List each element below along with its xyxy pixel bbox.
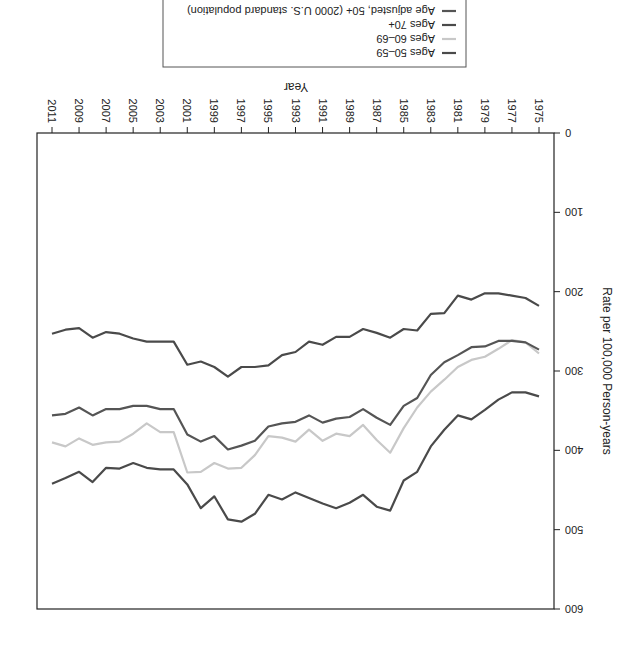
x-tick-label: 2003 [154,99,166,123]
y-tick-label: 300 [565,365,583,377]
x-tick-label: 1981 [452,99,464,123]
series-line-3 [52,341,539,450]
x-tick-label: 1979 [479,99,491,123]
x-tick-label: 1977 [506,99,518,123]
x-tick-label: 1975 [533,99,545,123]
y-tick-label: 600 [565,603,583,615]
x-tick-label: 1997 [235,99,247,123]
y-axis: 0100200300400500600 [554,127,583,615]
x-tick-label: 1991 [317,99,329,123]
plot-frame [37,133,554,609]
x-tick-label: 1983 [425,99,437,123]
legend-label: Age adjusted, 50+ (2000 U.S. standard po… [187,5,435,17]
y-tick-label: 100 [565,206,583,218]
legend: Ages 50–59 Ages 60–69 Ages 70+ Age adjus… [163,0,466,67]
legend-label: Ages 70+ [388,19,435,31]
x-axis-title: Year [284,80,308,94]
x-tick-label: 1995 [262,99,274,123]
chart-figure: 0100200300400500600 19751977197919811983… [0,0,633,653]
x-tick-label: 1985 [398,99,410,123]
series-line-2 [52,392,539,521]
x-tick-label: 2005 [127,99,139,123]
y-tick-label: 200 [565,286,583,298]
series-line-0 [52,293,539,376]
x-tick-label: 1989 [344,99,356,123]
plot-border [37,133,554,609]
x-tick-label: 1987 [371,99,383,123]
x-tick-label: 2009 [73,99,85,123]
x-tick-label: 2007 [100,99,112,123]
y-tick-label: 500 [565,524,583,536]
series-line-1 [52,340,539,472]
y-tick-label: 400 [565,444,583,456]
legend-label: Ages 50–59 [376,47,435,59]
y-axis-title: Rate per 100,000 Person-years [600,287,614,454]
series-layer [52,293,539,521]
x-axis: 1975197719791981198319851987198919911993… [46,99,545,133]
legend-item-age-adjusted: Age adjusted, 50+ (2000 U.S. standard po… [187,5,456,17]
x-tick-label: 2011 [46,99,58,123]
x-tick-label: 1999 [208,99,220,123]
x-tick-label: 2001 [181,99,193,123]
y-tick-label: 0 [565,127,571,139]
x-tick-label: 1993 [290,99,302,123]
line-chart: 0100200300400500600 19751977197919811983… [0,0,633,653]
legend-label: Ages 60–69 [376,33,435,45]
